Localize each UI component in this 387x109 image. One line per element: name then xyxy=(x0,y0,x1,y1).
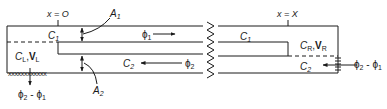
left-membrane-xmarks: xxxxxxxxxxxx xyxy=(8,70,47,77)
left-reservoir-label: CL,VL xyxy=(15,51,40,63)
c1-left-label: C1 xyxy=(48,30,59,42)
channel-diagram: xxxxxxxxxxxx x = O x = X A1 A2 C1 C1 C2 … xyxy=(0,0,387,109)
c1-right-label: C1 xyxy=(240,31,251,43)
break-zigzag xyxy=(207,22,214,78)
a1-label: A1 xyxy=(109,8,121,20)
c2-left-label: C2 xyxy=(123,58,134,70)
right-inflow-label: ϕ2 - ϕ1 xyxy=(354,59,382,71)
phi1-label: ϕ1 xyxy=(142,29,152,41)
x0-label: x = O xyxy=(46,9,69,19)
c2-right-label: C2 xyxy=(300,61,311,73)
phi2-label: ϕ2 xyxy=(185,58,195,70)
right-reservoir-label: CR,VR xyxy=(300,40,327,52)
xX-label: x = X xyxy=(276,9,299,19)
left-outflow-label: ϕ2 - ϕ1 xyxy=(18,89,46,101)
a2-label: A2 xyxy=(92,85,104,97)
